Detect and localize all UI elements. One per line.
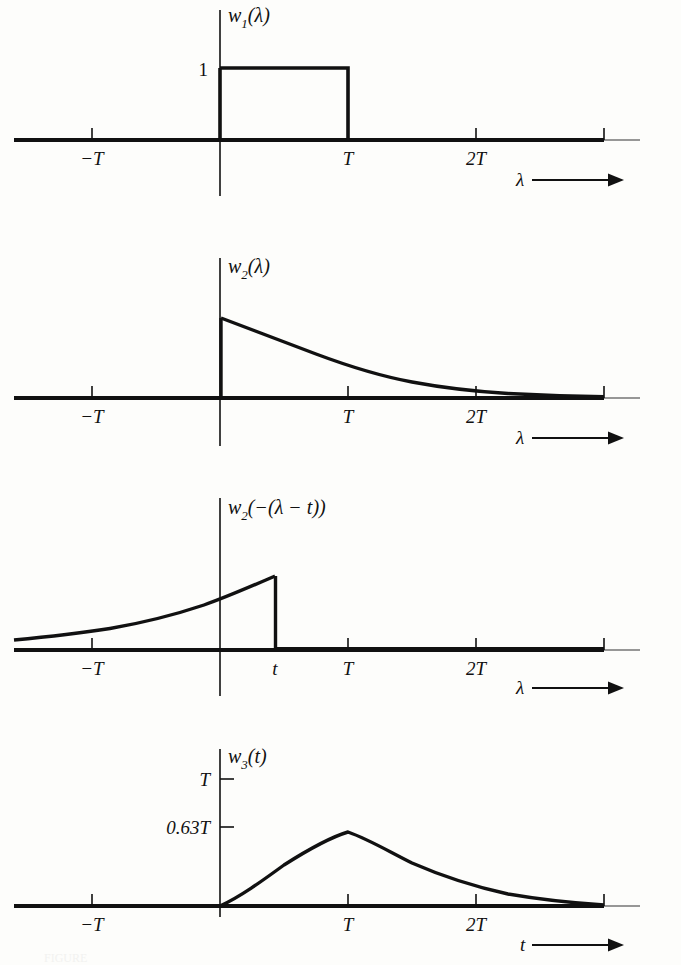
panel-3-w2-folded-shifted: −T t T 2T w2(−(λ − t)) λ <box>0 490 681 705</box>
panel-3-label-argument: (−(λ − t)) <box>248 496 326 519</box>
panel-1-label-base: w <box>228 4 242 26</box>
panel-1-label-argument: (λ) <box>248 4 270 27</box>
panel-3-xtick-label-T: T <box>343 658 355 679</box>
panel-1-rect-pulse-curve <box>220 68 348 140</box>
panel-4-xtick-label-T: T <box>343 914 355 935</box>
panel-1-ytick-label-1: 1 <box>199 59 209 80</box>
panel-2-label-argument: (λ) <box>248 255 270 278</box>
figure-caption-partial: FIGURE <box>44 951 644 965</box>
panel-4-w3-t: −T T 2T T 0.63T w3(t) t <box>0 735 681 965</box>
panel-2-label-base: w <box>228 255 242 277</box>
panel-2-xtick-label-minus-T: −T <box>80 406 105 427</box>
panel-2-function-label: w2(λ) <box>228 255 270 282</box>
panel-4-ytick-label-T: T <box>199 769 211 790</box>
panel-2-exponential-decay-curve <box>221 318 604 397</box>
panel-1-xtick-label-T: T <box>343 148 355 169</box>
panel-2-w2-lambda: −T T 2T w2(λ) λ <box>0 250 681 455</box>
panel-2-xtick-label-2T: 2T <box>466 406 488 427</box>
panel-1-xlabel: λ <box>515 169 524 190</box>
panel-3-xtick-label-minus-T: −T <box>80 658 105 679</box>
panel-4-label-base: w <box>228 745 242 767</box>
panel-4-xlabel-arrow-head <box>608 939 624 952</box>
panel-4-ytick-label-063T: 0.63T <box>166 817 211 838</box>
panel-1-xtick-label-2T: 2T <box>466 148 488 169</box>
panel-4-convolution-curve <box>220 832 604 906</box>
panel-4-label-argument: (t) <box>248 745 267 768</box>
convolution-figure: 1 −T T 2T w1(λ) λ −T T 2T w2(λ) λ <box>0 0 681 965</box>
panel-1-w1-lambda: 1 −T T 2T w1(λ) λ <box>0 0 681 205</box>
panel-1-function-label: w1(λ) <box>228 4 270 31</box>
panel-2-xtick-label-T: T <box>343 406 355 427</box>
panel-4-function-label: w3(t) <box>228 745 267 772</box>
panel-1-xtick-label-minus-T: −T <box>80 148 105 169</box>
panel-2-xlabel: λ <box>515 427 524 448</box>
panel-2-xlabel-arrow-head <box>608 432 624 445</box>
panel-1-xlabel-arrow-head <box>608 174 624 187</box>
panel-3-label-base: w <box>228 496 242 518</box>
panel-3-rising-exponential-curve <box>14 576 275 640</box>
panel-3-xtick-label-2T: 2T <box>466 658 488 679</box>
panel-4-xtick-label-2T: 2T <box>466 914 488 935</box>
panel-3-xlabel-arrow-head <box>608 682 624 695</box>
panel-3-xtick-label-t: t <box>272 658 278 679</box>
panel-3-xlabel: λ <box>515 677 524 698</box>
panel-3-function-label: w2(−(λ − t)) <box>228 496 326 523</box>
panel-4-xtick-label-minus-T: −T <box>80 914 105 935</box>
